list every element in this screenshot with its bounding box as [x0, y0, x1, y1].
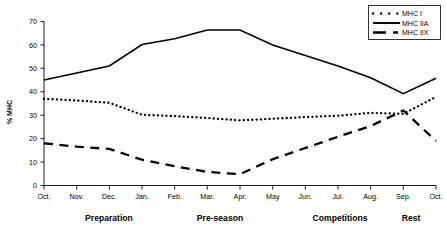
x-tick-label: Nov. [70, 192, 84, 201]
x-tick-label: Jun. [299, 192, 313, 201]
x-tick-label: Oct. [429, 192, 442, 201]
y-tick-label: 10 [29, 158, 37, 167]
chart-container: % MHC 0 10 20 30 40 50 60 70 [0, 0, 447, 235]
legend-label-mhc-iia: MHC IIA [402, 20, 429, 27]
phase-annotations: Preparation Pre-season Competitions Rest [85, 213, 420, 223]
phase-label-preparation: Preparation [85, 213, 133, 223]
y-tick-label: 50 [29, 64, 37, 73]
y-axis-title: % MHC [6, 100, 13, 124]
x-tick-label: Oct. [37, 192, 50, 201]
legend-label-mhc-iix: MHC IIX [402, 29, 429, 36]
phase-label-rest: Rest [402, 213, 421, 223]
x-tick-label: Jan. [135, 192, 149, 201]
y-tick-label: 40 [29, 87, 37, 96]
x-tick-label: Aug. [363, 192, 378, 201]
x-axis-ticks: Oct. Nov. Dec. Jan. Feb. Mar. Apr. May J… [37, 186, 442, 202]
x-tick-label: Sep. [396, 192, 411, 201]
y-tick-label: 60 [29, 41, 37, 50]
x-tick-label: Jul. [332, 192, 343, 201]
y-tick-label: 30 [29, 111, 37, 120]
line-chart-svg: % MHC 0 10 20 30 40 50 60 70 [0, 0, 447, 235]
x-tick-label: Feb. [168, 192, 182, 201]
x-tick-label: May [266, 192, 280, 201]
x-tick-label: Dec. [102, 192, 117, 201]
x-tick-label: Mar. [200, 192, 214, 201]
y-tick-label: 20 [29, 134, 37, 143]
phase-label-pre-season: Pre-season [197, 213, 243, 223]
phase-label-competitions: Competitions [313, 213, 368, 223]
series-line-mhc-i [44, 97, 436, 120]
y-axis-ticks: 0 10 20 30 40 50 60 70 [29, 17, 44, 190]
y-tick-label: 0 [33, 181, 37, 190]
legend-label-mhc-i: MHC I [402, 10, 422, 17]
x-tick-label: Apr. [234, 192, 247, 201]
y-tick-label: 70 [29, 17, 37, 26]
chart-legend[interactable]: MHC I MHC IIA MHC IIX [369, 6, 441, 40]
